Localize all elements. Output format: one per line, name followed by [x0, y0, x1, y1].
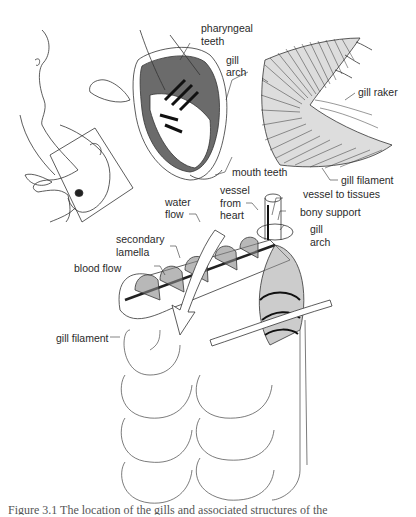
label-mouth-teeth: mouth teeth	[232, 166, 287, 178]
gill-arch-detail	[261, 38, 392, 168]
label-gill-arch-top-2: arch	[226, 66, 246, 78]
label-gill-filament-top: gill filament	[341, 174, 394, 186]
label-water: water	[165, 196, 191, 208]
label-heart: heart	[220, 209, 244, 221]
label-pharyngeal: pharyngeal	[201, 22, 253, 34]
label-secondary: secondary	[116, 233, 164, 245]
mouth-view	[90, 30, 227, 180]
gill-diagram-illustration	[0, 0, 416, 517]
label-from: from	[220, 197, 241, 209]
label-vessel: vessel	[220, 184, 250, 196]
label-flow: flow	[165, 208, 184, 220]
label-blood-flow: blood flow	[74, 262, 121, 274]
label-bony-support: bony support	[300, 206, 361, 218]
label-gill-arch-bottom-1: gill	[310, 223, 323, 235]
label-gill-arch-top-1: gill	[226, 54, 239, 66]
label-teeth: teeth	[201, 35, 224, 47]
label-gill-filament-bottom: gill filament	[56, 332, 109, 344]
figure-caption: Figure 3.1 The location of the gills and…	[8, 503, 328, 517]
label-gill-raker: gill raker	[358, 86, 398, 98]
label-gill-arch-bottom-2: arch	[310, 236, 330, 248]
label-vessel-to-tissues: vessel to tissues	[303, 188, 380, 200]
fish-outline	[20, 30, 133, 222]
label-lamella: lamella	[116, 246, 149, 258]
